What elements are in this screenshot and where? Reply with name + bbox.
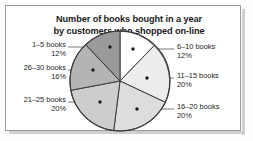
slice-label-26-30-books-pct: 16% bbox=[4, 72, 66, 81]
leader-dot-21-25-books bbox=[98, 100, 101, 103]
slice-label-26-30-books-name: 26–30 books bbox=[24, 63, 66, 72]
slice-label-6-10-books-name: 6–10 books bbox=[177, 42, 215, 51]
leader-dot-16-20-books bbox=[135, 107, 138, 110]
slice-label-26-30-books: 26–30 books 16% bbox=[4, 63, 66, 81]
slice-label-16-20-books-name: 16–20 books bbox=[177, 102, 219, 111]
leader-dot-11-15-books bbox=[145, 76, 148, 79]
slice-label-11-15-books-name: 11–15 books bbox=[177, 71, 219, 80]
slice-label-11-15-books: 11–15 books 20% bbox=[177, 71, 219, 89]
slice-label-6-10-books: 6–10 books 12% bbox=[177, 42, 215, 60]
slice-label-1-5-books-pct: 12% bbox=[8, 49, 66, 58]
slice-label-6-10-books-pct: 12% bbox=[177, 51, 215, 60]
slice-label-1-5-books-name: 1–5 books bbox=[32, 40, 66, 49]
slice-label-16-20-books-pct: 20% bbox=[177, 111, 219, 120]
slice-label-21-25-books-name: 21–25 books bbox=[24, 95, 66, 104]
slice-label-21-25-books: 21–25 books 20% bbox=[4, 95, 66, 113]
slice-label-11-15-books-pct: 20% bbox=[177, 80, 219, 89]
figure-container: Number of books bought in a year by cust… bbox=[0, 0, 253, 141]
leader-dot-1-5-books bbox=[108, 45, 111, 48]
slice-label-21-25-books-pct: 20% bbox=[4, 104, 66, 113]
leader-dot-6-10-books bbox=[131, 47, 134, 50]
slice-label-1-5-books: 1–5 books 12% bbox=[8, 40, 66, 58]
slice-label-16-20-books: 16–20 books 20% bbox=[177, 102, 219, 120]
leader-dot-26-30-books bbox=[91, 68, 94, 71]
